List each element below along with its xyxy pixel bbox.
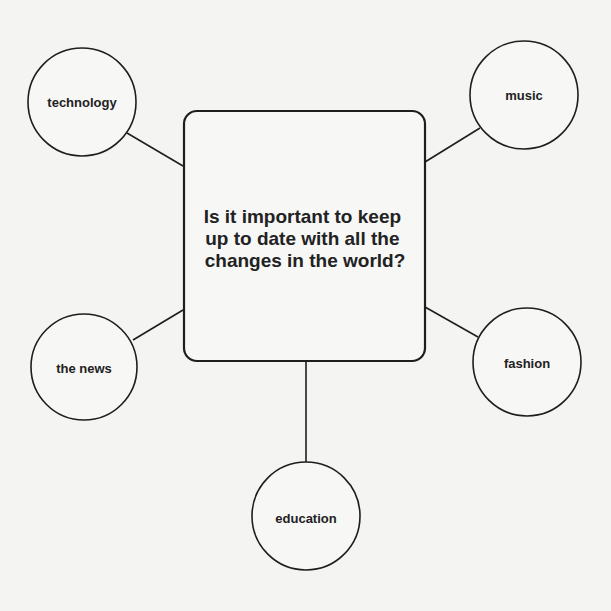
connector-fashion xyxy=(425,307,478,337)
mind-map-canvas: Is it important to keep up to date with … xyxy=(0,0,611,611)
node-label-technology: technology xyxy=(47,95,117,110)
node-label-education: education xyxy=(275,511,336,526)
node-label-music: music xyxy=(505,88,543,103)
node-music: music xyxy=(470,41,578,149)
central-question-line-1: Is it important to keep xyxy=(204,206,401,227)
connector-the-news xyxy=(133,310,183,340)
node-technology: technology xyxy=(28,48,136,156)
central-question: Is it important to keep up to date with … xyxy=(204,206,407,271)
node-the-news: the news xyxy=(31,314,137,420)
connector-technology xyxy=(127,133,183,166)
node-fashion: fashion xyxy=(473,308,581,416)
central-question-line-2: up to date with all the xyxy=(205,228,399,249)
node-label-fashion: fashion xyxy=(504,356,550,371)
node-label-the-news: the news xyxy=(56,361,112,376)
connector-music xyxy=(425,128,480,162)
central-question-line-3: changes in the world? xyxy=(205,250,406,271)
node-education: education xyxy=(252,462,360,570)
